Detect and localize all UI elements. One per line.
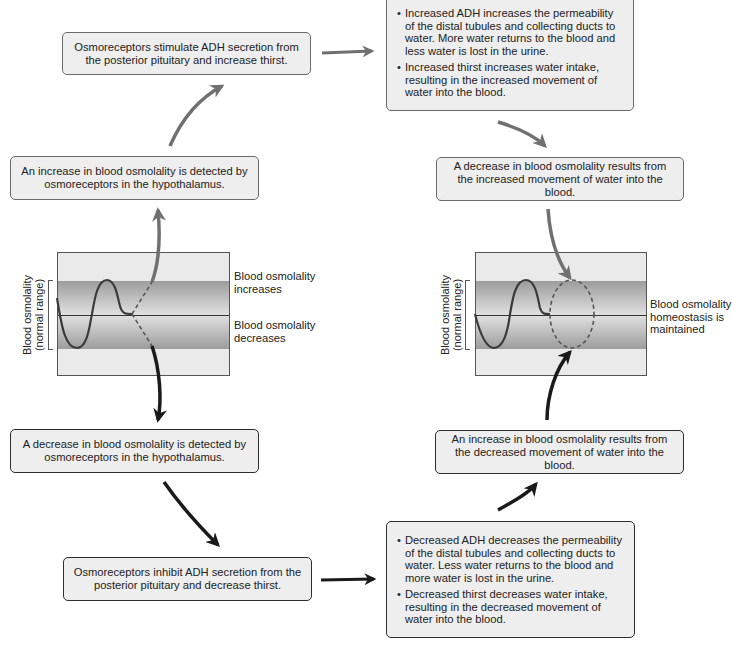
label-up-line2: increases (234, 283, 315, 296)
arrow-decrease-effects-to-result (498, 484, 536, 510)
label-homeostasis-line3: maintained (650, 323, 731, 336)
left-y-label-line2: (normal range) (33, 265, 45, 365)
arrow-increase-effects-to-result (498, 122, 545, 146)
set-point-line (58, 315, 229, 316)
decrease-effect-adh: Decreased ADH decreases the permeability… (397, 534, 626, 584)
increase-result-box: A decrease in blood osmolality results f… (436, 157, 684, 201)
decrease-result-text: An increase in blood osmolality results … (444, 433, 675, 472)
left-y-label-line1: Blood osmolality (21, 265, 33, 365)
decrease-response-text: Osmoreceptors inhibit ADH secretion from… (72, 566, 303, 592)
label-homeostasis-line1: Blood osmolality (650, 298, 731, 311)
increase-detect-box: An increase in blood osmolality is detec… (10, 156, 259, 200)
increase-effect-adh: Increased ADH increases the permeability… (397, 7, 625, 57)
increase-response-box: Osmoreceptors stimulate ADH secretion fr… (62, 32, 311, 75)
label-up-line1: Blood osmolality (234, 270, 315, 283)
decrease-detect-box: A decrease in blood osmolality is detect… (10, 429, 259, 473)
arrow-decrease-response-to-effects (321, 579, 374, 580)
label-osmolality-decreases: Blood osmolality decreases (234, 319, 315, 344)
label-osmolality-increases: Blood osmolality increases (234, 270, 315, 295)
right-y-label-line2: (normal range) (451, 265, 463, 365)
decrease-response-box: Osmoreceptors inhibit ADH secretion from… (63, 557, 312, 601)
left-range-bracket (48, 280, 53, 350)
left-y-axis-label: Blood osmolality (normal range) (21, 265, 47, 365)
label-homeostasis-line2: homeostasis is (650, 311, 731, 324)
increase-detect-text: An increase in blood osmolality is detec… (19, 165, 250, 191)
right-y-axis-label: Blood osmolality (normal range) (439, 265, 465, 365)
decrease-detect-text: A decrease in blood osmolality is detect… (19, 438, 250, 464)
decrease-effects-box: Decreased ADH decreases the permeability… (386, 521, 635, 638)
label-down-line1: Blood osmolality (234, 319, 315, 332)
right-osmolality-graph (475, 252, 647, 376)
decrease-effects-list: Decreased ADH decreases the permeability… (397, 534, 626, 626)
arrow-increase-detect-to-response (170, 86, 222, 146)
increase-effects-box: Increased ADH increases the permeability… (386, 0, 634, 111)
label-homeostasis-maintained: Blood osmolality homeostasis is maintain… (650, 298, 731, 336)
set-point-line (476, 315, 646, 316)
right-range-bracket (465, 280, 470, 350)
arrow-increase-response-to-effects (322, 51, 372, 53)
decrease-effect-thirst: Decreased thirst decreases water intake,… (397, 588, 626, 626)
right-y-label-line1: Blood osmolality (439, 265, 451, 365)
arrow-decrease-detect-to-response (164, 482, 218, 545)
increase-response-text: Osmoreceptors stimulate ADH secretion fr… (71, 41, 302, 67)
label-down-line2: decreases (234, 332, 315, 345)
increase-result-text: A decrease in blood osmolality results f… (445, 160, 675, 199)
left-osmolality-graph (57, 252, 230, 376)
increase-effects-list: Increased ADH increases the permeability… (397, 7, 625, 99)
increase-effect-thirst: Increased thirst increases water intake,… (397, 61, 625, 99)
decrease-result-box: An increase in blood osmolality results … (435, 430, 684, 474)
